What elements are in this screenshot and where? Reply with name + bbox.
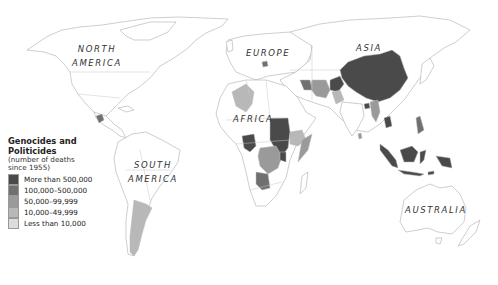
legend-swatch bbox=[8, 207, 19, 218]
sri-lanka bbox=[358, 133, 362, 139]
legend-item-10000-49999: 10,000–49,999 bbox=[8, 207, 128, 218]
legend-swatch bbox=[8, 218, 19, 229]
papua bbox=[436, 156, 452, 168]
label-europe: EUROPE bbox=[246, 48, 290, 59]
caribbean bbox=[118, 106, 134, 112]
argentina bbox=[130, 200, 152, 256]
label-south-america: SOUTH AMERICA bbox=[128, 160, 178, 185]
uganda-rwanda bbox=[280, 152, 286, 162]
legend-label: 10,000–49,999 bbox=[24, 208, 78, 217]
tasmania bbox=[436, 238, 442, 244]
madagascar bbox=[300, 172, 308, 194]
sulawesi bbox=[420, 150, 426, 164]
bosnia-region bbox=[262, 61, 268, 67]
legend-item-50000-99999: 50,000–99,999 bbox=[8, 196, 128, 207]
sumatra bbox=[380, 144, 398, 168]
label-south: SOUTH bbox=[128, 160, 178, 171]
east-timor bbox=[428, 171, 434, 175]
legend-item-less-than-10000: Less than 10,000 bbox=[8, 218, 128, 229]
label-africa: AFRICA bbox=[233, 114, 273, 125]
legend-label: Less than 10,000 bbox=[24, 219, 86, 228]
legend-item-more-than-500000: More than 500,000 bbox=[8, 174, 128, 185]
legend-swatch bbox=[8, 185, 19, 196]
philippines bbox=[416, 116, 424, 134]
legend-subtitle-line2: since 1955) bbox=[8, 164, 128, 172]
cambodia bbox=[384, 116, 392, 128]
legend: Genocides and Politicides (number of dea… bbox=[8, 137, 128, 229]
legend-label: More than 500,000 bbox=[24, 175, 92, 184]
bangladesh bbox=[364, 103, 370, 109]
label-north: NORTH bbox=[72, 44, 122, 55]
label-asia: ASIA bbox=[356, 43, 382, 54]
label-north-america: NORTH AMERICA bbox=[72, 44, 122, 69]
legend-label: 100,000–500,000 bbox=[24, 186, 87, 195]
label-america-south: AMERICA bbox=[128, 174, 178, 185]
legend-swatch bbox=[8, 196, 19, 207]
label-australia: AUSTRALIA bbox=[405, 205, 467, 216]
label-america: AMERICA bbox=[72, 58, 122, 69]
legend-item-100000-500000: 100,000–500,000 bbox=[8, 185, 128, 196]
borneo-kalimantan bbox=[400, 146, 418, 162]
java bbox=[398, 170, 424, 176]
legend-label: 50,000–99,999 bbox=[24, 197, 78, 206]
legend-swatch bbox=[8, 174, 19, 185]
